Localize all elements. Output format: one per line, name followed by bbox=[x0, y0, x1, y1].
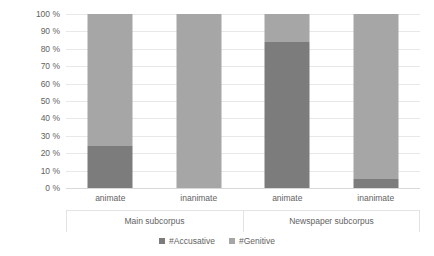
y-tick-label: 70 % bbox=[0, 62, 60, 71]
bar-segment-accusative[interactable] bbox=[265, 42, 310, 188]
bar-main-inanimate[interactable] bbox=[176, 14, 221, 188]
bar-slot bbox=[155, 14, 244, 188]
bars-layer bbox=[66, 14, 420, 188]
legend-item-genitive[interactable]: #Genitive bbox=[229, 236, 275, 246]
bar-newspaper-inanimate[interactable] bbox=[353, 14, 398, 188]
stacked-bar-chart: 100 % 90 % 80 % 70 % 60 % 50 % 40 % 30 %… bbox=[0, 0, 434, 256]
legend-item-accusative[interactable]: #Accusative bbox=[159, 236, 215, 246]
x-category-label: inanimate bbox=[155, 193, 244, 203]
y-tick-label: 20 % bbox=[0, 149, 60, 158]
bar-main-animate[interactable] bbox=[88, 14, 133, 188]
x-group-row: Main subcorpus Newspaper subcorpus bbox=[66, 210, 420, 232]
bar-newspaper-animate[interactable] bbox=[265, 14, 310, 188]
y-axis: 100 % 90 % 80 % 70 % 60 % 50 % 40 % 30 %… bbox=[0, 14, 60, 188]
x-category-label: animate bbox=[243, 193, 332, 203]
x-category-label: animate bbox=[66, 193, 155, 203]
y-tick-label: 30 % bbox=[0, 131, 60, 140]
x-group-label: Main subcorpus bbox=[66, 216, 243, 226]
x-category-row: animate inanimate animate inanimate bbox=[66, 189, 420, 210]
bar-segment-genitive[interactable] bbox=[88, 14, 133, 146]
bar-segment-genitive[interactable] bbox=[176, 14, 221, 188]
bar-segment-genitive[interactable] bbox=[265, 14, 310, 42]
y-tick-label: 50 % bbox=[0, 97, 60, 106]
legend-label: #Accusative bbox=[169, 236, 215, 246]
bar-segment-accusative[interactable] bbox=[353, 179, 398, 188]
x-group-label: Newspaper subcorpus bbox=[243, 216, 420, 226]
y-tick-label: 0 % bbox=[0, 184, 60, 193]
y-tick-label: 100 % bbox=[0, 10, 60, 19]
legend-label: #Genitive bbox=[239, 236, 275, 246]
legend-swatch-icon bbox=[159, 238, 165, 244]
legend: #Accusative #Genitive bbox=[0, 236, 434, 246]
bar-slot bbox=[66, 14, 155, 188]
bar-segment-accusative[interactable] bbox=[88, 146, 133, 188]
y-tick-label: 90 % bbox=[0, 27, 60, 36]
x-category-label: inanimate bbox=[332, 193, 421, 203]
bar-segment-genitive[interactable] bbox=[353, 14, 398, 179]
bar-slot bbox=[332, 14, 421, 188]
y-tick-label: 60 % bbox=[0, 79, 60, 88]
y-tick-label: 80 % bbox=[0, 44, 60, 53]
bar-slot bbox=[243, 14, 332, 188]
y-tick-label: 40 % bbox=[0, 114, 60, 123]
x-axis: animate inanimate animate inanimate Main… bbox=[66, 189, 420, 231]
legend-swatch-icon bbox=[229, 238, 235, 244]
y-tick-label: 10 % bbox=[0, 166, 60, 175]
